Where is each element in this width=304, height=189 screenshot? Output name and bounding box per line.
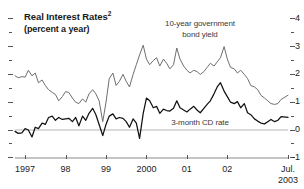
y-axis-tick-label: 2 — [286, 68, 300, 78]
x-axis-tick-label: 2000 — [126, 164, 166, 174]
x-tick — [66, 155, 67, 159]
x-tick — [146, 155, 147, 159]
x-tick — [288, 155, 289, 159]
plot-area — [0, 0, 304, 189]
x-axis-tick-label: 02 — [207, 164, 247, 174]
y-tick-major — [8, 46, 13, 47]
x-axis-tick-label: 01 — [167, 164, 207, 174]
x-axis-tick-label: 99 — [86, 164, 126, 174]
y-tick-minor — [9, 32, 12, 33]
y-tick-major — [8, 102, 13, 103]
y-tick-major — [8, 157, 13, 158]
y-tick-minor — [291, 116, 294, 117]
y-tick-major — [8, 18, 13, 19]
x-tick — [106, 155, 107, 159]
y-tick-minor — [9, 88, 12, 89]
y-tick-major — [8, 130, 13, 131]
x-tick — [227, 155, 228, 159]
y-tick-minor — [291, 88, 294, 89]
y-tick-minor — [9, 143, 12, 144]
x-axis-tick-label: Jul. — [268, 164, 304, 174]
y-axis-tick-label: 0 — [286, 124, 300, 134]
y-axis-tick-label: 3 — [286, 41, 300, 51]
y-tick-minor — [291, 32, 294, 33]
y-tick-minor — [291, 143, 294, 144]
x-axis-tick-label-year: 2003 — [268, 175, 304, 185]
y-axis-tick-label: 1 — [286, 96, 300, 106]
x-tick — [187, 155, 188, 159]
x-axis-tick-label: 98 — [46, 164, 86, 174]
x-axis-tick-label: 1997 — [5, 164, 45, 174]
y-tick-minor — [9, 116, 12, 117]
x-tick — [25, 155, 26, 159]
y-tick-minor — [291, 60, 294, 61]
real-interest-rates-chart: Real Interest Rates2 (percent a year) 10… — [0, 0, 304, 189]
y-axis-tick-label: 4 — [286, 13, 300, 23]
y-tick-minor — [9, 60, 12, 61]
y-tick-major — [8, 74, 13, 75]
